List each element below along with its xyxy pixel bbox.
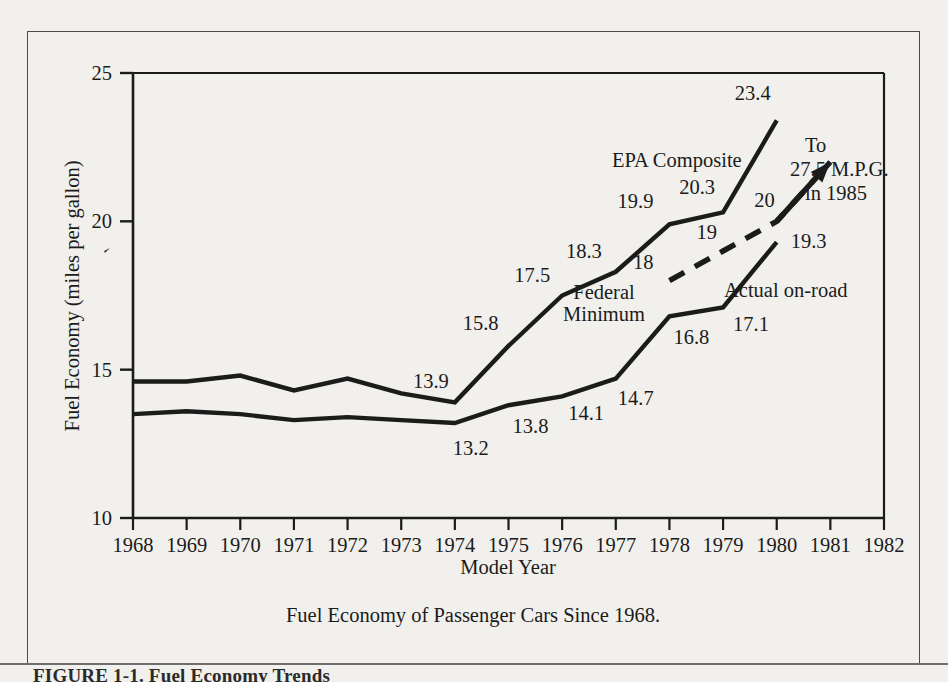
data-label-16-8: 16.8 <box>673 326 709 348</box>
data-label-14-1: 14.1 <box>568 402 604 424</box>
data-label-13-2: 13.2 <box>453 437 489 459</box>
data-label-20-3: 20.3 <box>679 176 715 198</box>
x-tick-label: 1980 <box>756 534 797 556</box>
x-tick-label: 1982 <box>864 534 905 556</box>
x-tick-label: 1978 <box>649 534 690 556</box>
x-tick-label: 1981 <box>810 534 851 556</box>
x-axis-title: Model Year <box>460 556 556 578</box>
y-tick-label: 20 <box>92 210 113 232</box>
y-axis-title: Fuel Economy (miles per gallon) <box>61 161 84 432</box>
data-label-20: 20 <box>754 189 775 211</box>
data-label-15-8: 15.8 <box>463 312 499 334</box>
y-tick-group: 10152025 <box>92 62 134 529</box>
federal-minimum-label-line1: Federal <box>573 281 635 303</box>
y-tick-label: 15 <box>92 359 113 381</box>
target-label-line3: in 1985 <box>805 182 867 204</box>
data-label-14-7: 14.7 <box>618 387 654 409</box>
x-tick-label: 1975 <box>488 534 529 556</box>
x-tick-label: 1973 <box>381 534 422 556</box>
data-label-17-1: 17.1 <box>733 313 769 335</box>
x-tick-label: 1968 <box>113 534 154 556</box>
data-label-19-9: 19.9 <box>618 190 654 212</box>
data-label-13-9: 13.9 <box>413 370 449 392</box>
data-label-19: 19 <box>697 221 718 243</box>
x-tick-label: 1970 <box>220 534 261 556</box>
figure-caption: Fuel Economy of Passenger Cars Since 196… <box>286 604 660 627</box>
federal-minimum-label-line2: Minimum <box>563 303 645 325</box>
target-label-line1: To <box>805 134 826 156</box>
data-label-23-4: 23.4 <box>735 82 771 104</box>
scan-caret-mark <box>104 248 110 253</box>
x-tick-group: 1968196919701971197219731974197519761977… <box>113 518 905 556</box>
epa-composite-label: EPA Composite <box>612 149 742 172</box>
x-tick-label: 1972 <box>327 534 368 556</box>
y-tick-label: 10 <box>92 507 113 529</box>
x-tick-label: 1977 <box>595 534 636 556</box>
x-tick-label: 1976 <box>542 534 583 556</box>
data-label-18-3: 18.3 <box>566 240 602 262</box>
x-tick-label: 1979 <box>703 534 744 556</box>
data-label-13-8: 13.8 <box>513 415 549 437</box>
chart-svg: 10152025 1968196919701971197219731974197… <box>0 0 948 682</box>
data-label-17-5: 17.5 <box>514 264 550 286</box>
target-label-line2: 27.5 M.P.G. <box>790 158 889 180</box>
x-tick-label: 1974 <box>434 534 475 556</box>
data-label-19-3: 19.3 <box>791 230 827 252</box>
data-label-18: 18 <box>633 251 654 273</box>
x-tick-label: 1969 <box>166 534 207 556</box>
y-tick-label: 25 <box>92 62 113 84</box>
x-tick-label: 1971 <box>273 534 314 556</box>
actual-on-road-label: Actual on-road <box>724 279 848 301</box>
